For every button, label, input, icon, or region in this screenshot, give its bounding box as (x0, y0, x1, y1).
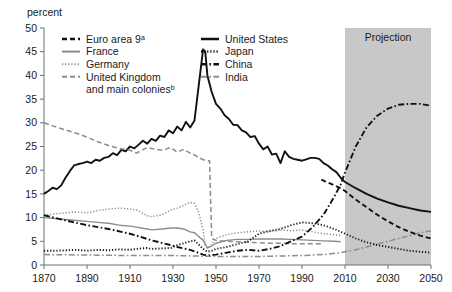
legend-label-china: China (225, 58, 253, 70)
x-tick-label: 1870 (32, 272, 56, 284)
y-tick-label: 15 (25, 188, 37, 200)
y-tick-label: 10 (25, 211, 37, 223)
y-tick-label: 35 (25, 93, 37, 105)
y-tick-label: 30 (25, 116, 37, 128)
legend-label-and-main-colonies: and main coloniesb (86, 83, 175, 95)
legend-label-japan: Japan (225, 45, 254, 57)
x-tick-label: 1890 (75, 272, 99, 284)
x-tick-label: 1990 (290, 272, 314, 284)
legend-label-germany: Germany (86, 58, 130, 70)
y-tick-label: 5 (31, 235, 37, 247)
projection-shaded-region (345, 28, 431, 265)
y-tick-label: 40 (25, 69, 37, 81)
y-tick-label: 45 (25, 45, 37, 57)
x-tick-label: 2050 (419, 272, 443, 284)
line-chart-svg: Projection051015202530354045501870189019… (0, 0, 452, 292)
x-tick-label: 1950 (204, 272, 228, 284)
chart-figure: percent Projection0510152025303540455018… (0, 0, 452, 292)
y-tick-label: 0 (31, 259, 37, 271)
legend-label-euro-area-9: Euro area 9a (86, 33, 145, 45)
legend-label-india: India (225, 71, 248, 83)
x-tick-label: 2030 (376, 272, 400, 284)
x-tick-label: 1910 (118, 272, 142, 284)
x-tick-label: 1970 (247, 272, 271, 284)
y-tick-label: 20 (25, 164, 37, 176)
legend-label-united-kingdom: United Kingdom (86, 71, 161, 83)
y-tick-label: 25 (25, 140, 37, 152)
x-tick-label: 2010 (333, 272, 357, 284)
legend-label-france: France (86, 45, 119, 57)
y-tick-label: 50 (25, 22, 37, 34)
projection-label: Projection (365, 31, 412, 43)
x-tick-label: 1930 (161, 272, 185, 284)
legend-label-united-states: United States (225, 33, 288, 45)
